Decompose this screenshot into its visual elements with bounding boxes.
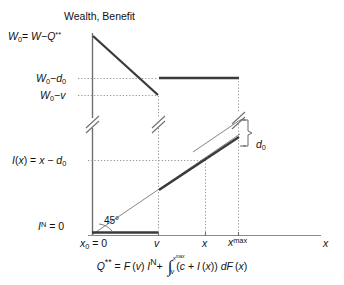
integral-sign: ∫xmaxv [168,258,173,275]
y-axis-label-w0: W0= W−Q** [8,31,61,43]
y-axis-label-i-of-x: I(x) = x − d0 [12,155,66,167]
x-axis-tick-label-xmax: xmax [228,237,247,248]
brace-d0 [243,120,252,146]
figure-caption-formula: Q** = F (v) IN+ ∫xmaxv (c + I (x)) dF (x… [0,258,344,275]
y-axis-label-w0-minus-d0: W0−d0 [36,73,66,85]
series-wealth-declining [93,36,158,95]
x-axis-tick-label-x0: x0 = 0 [80,238,107,250]
series-45-degree-line-upper [193,120,240,152]
y-axis-label-i-n: IN = 0 [38,221,64,232]
vline-v-break-marks [152,116,165,133]
x-axis-title: x [323,238,328,249]
brace-label-d0: d0 [256,139,266,151]
x-axis-tick-label-x: x [202,238,207,249]
angle-annotation-45: 45° [104,216,119,226]
y-axis-label-w0-minus-v: W0−v [40,90,65,102]
x-axis-tick-label-v: v [154,238,159,249]
series-indemnity [159,137,239,190]
figure-canvas: Wealth, Benefit W0= W−Q** W0−d0 W0−v I(x… [0,0,344,285]
page-title: Wealth, Benefit [64,11,135,22]
